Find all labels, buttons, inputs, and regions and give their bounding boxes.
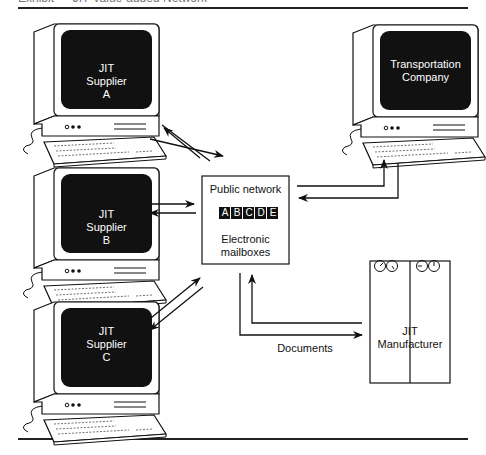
mailbox-d: D	[255, 206, 267, 220]
mailbox-c: C	[243, 206, 255, 220]
network-caption: Electronic mailboxes	[202, 233, 289, 259]
supplier-c-line1: JIT	[61, 325, 152, 338]
mailbox-row: A B C D E	[219, 206, 279, 220]
transport-line1: Transportation	[380, 58, 471, 71]
network-line1: Electronic	[202, 233, 289, 246]
supplier-b-label: JIT Supplier B	[61, 208, 152, 247]
manufacturer-line2: Manufacturer	[370, 338, 450, 351]
manufacturer-line1: JIT	[370, 325, 450, 338]
supplier-b-line2: Supplier	[61, 221, 152, 234]
supplier-c-line2: Supplier	[61, 338, 152, 351]
supplier-c-label: JIT Supplier C	[61, 325, 152, 364]
manufacturer-label: JIT Manufacturer	[370, 325, 450, 351]
supplier-a-line1: JIT	[61, 62, 152, 75]
supplier-a-line2: Supplier	[61, 75, 152, 88]
supplier-b-line1: JIT	[61, 208, 152, 221]
mailbox-a: A	[219, 206, 231, 220]
supplier-c-computer	[23, 302, 166, 445]
supplier-b-line3: B	[61, 234, 152, 247]
documents-label: Documents	[270, 342, 340, 355]
network-title: Public network	[202, 183, 289, 196]
supplier-a-label: JIT Supplier A	[61, 62, 152, 101]
transport-line2: Company	[380, 71, 471, 84]
supplier-c-line3: C	[61, 351, 152, 364]
transport-computer	[342, 25, 485, 168]
transport-label: Transportation Company	[380, 58, 471, 84]
mailbox-e: E	[267, 206, 279, 220]
supplier-a-line3: A	[61, 88, 152, 101]
mailbox-b: B	[231, 206, 243, 220]
network-line2: mailboxes	[202, 246, 289, 259]
